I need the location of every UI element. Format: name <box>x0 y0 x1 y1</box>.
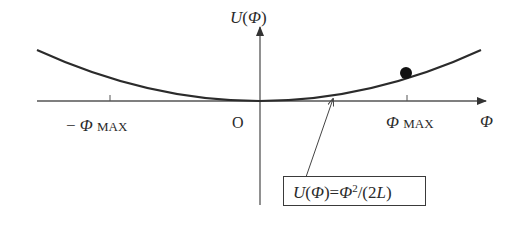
parabola-curve <box>37 50 481 101</box>
origin-label: O <box>232 115 244 131</box>
x-axis-label: Φ <box>480 113 493 130</box>
neg-max-label: − Φ MAX <box>66 117 127 134</box>
formula-annotation-box: U(Φ)=Φ2/(2L) <box>283 176 426 206</box>
pos-max-label: Φ MAX <box>386 114 434 131</box>
pointer-line <box>306 99 333 177</box>
potential-diagram: U(Φ) O − Φ MAX Φ MAX Φ U(Φ)=Φ2/(2L) <box>0 0 526 225</box>
formula-text: U(Φ)=Φ2/(2L) <box>293 183 392 201</box>
diagram-canvas <box>0 0 526 225</box>
y-axis-label: U(Φ) <box>230 9 267 26</box>
ball-marker <box>400 67 412 79</box>
